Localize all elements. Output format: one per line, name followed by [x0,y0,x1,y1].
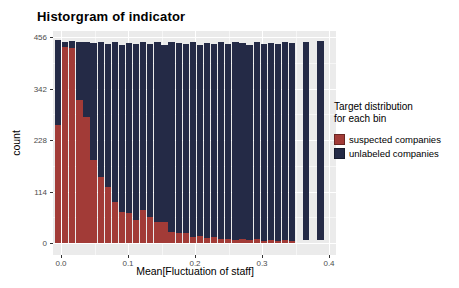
y-tick-mark [50,89,53,90]
y-tick-mark [50,140,53,141]
bar-unlabeled-segment [76,42,82,99]
bar-unlabeled-segment [55,40,61,125]
legend-swatch [334,148,345,159]
bar-unlabeled-segment [211,44,217,237]
legend-item-label: suspected companies [349,134,441,145]
bar-unlabeled-segment [90,43,96,160]
bar-unlabeled-segment [317,41,323,240]
bar-unlabeled-segment [218,42,224,239]
bar-unlabeled-segment [204,43,210,238]
bar-suspected-segment [161,222,167,243]
bar-unlabeled-segment [154,42,160,222]
bar-unlabeled-segment [246,45,252,241]
plot-panel [53,31,336,255]
bar-unlabeled-segment [140,42,146,210]
bar-unlabeled-segment [183,44,189,232]
bar-unlabeled-segment [254,42,260,239]
y-tick-label: 456 [27,33,47,42]
y-tick-label: 114 [27,187,47,196]
bar-unlabeled-segment [225,44,231,239]
bar-unlabeled-segment [161,45,167,222]
bar-suspected-segment [246,240,252,243]
legend-item: suspected companies [334,133,456,146]
legend-item-label: unlabeled companies [349,148,439,159]
bar-suspected-segment [232,240,238,243]
bar-unlabeled-segment [168,42,174,231]
bar-suspected-segment [55,125,61,243]
bar-suspected-segment [98,177,104,243]
bar-unlabeled-segment [83,42,89,117]
histogram-screenshot: { "chart_data": { "type": "bar", "stacke… [0,0,459,288]
bar-suspected-segment [119,212,125,243]
bar-suspected-segment [83,117,89,243]
bar-suspected-segment [126,213,132,243]
bar-suspected-segment [218,239,224,243]
bar-suspected-segment [76,100,82,243]
bar-suspected-segment [168,232,174,243]
bar-suspected-segment [204,238,210,243]
chart-title: Historgram of indicator [37,9,185,24]
bar-unlabeled-segment [289,43,295,240]
bar-unlabeled-segment [112,42,118,202]
bar-unlabeled-segment [98,42,104,177]
bar-suspected-segment [69,48,75,243]
x-tick-label: 0.4 [317,259,341,268]
x-tick-mark [329,255,330,258]
bar-unlabeled-segment [119,45,125,212]
x-tick-mark [195,255,196,258]
bar-suspected-segment [190,237,196,243]
bar-suspected-segment [282,240,288,243]
bar-unlabeled-segment [147,44,153,217]
bar-unlabeled-segment [232,42,238,239]
bar-unlabeled-segment [303,42,309,240]
legend-title-line1: Target distribution [334,101,456,113]
x-tick-mark [128,255,129,258]
x-tick-mark [262,255,263,258]
legend-title-line2: for each bin [334,113,456,125]
bar-suspected-segment [90,160,96,243]
legend-title: Target distribution for each bin [334,101,456,125]
bar-unlabeled-segment [239,43,245,239]
bar-suspected-segment [225,239,231,243]
y-tick-mark [50,37,53,38]
bar-unlabeled-segment [105,44,111,187]
bar-unlabeled-segment [261,44,267,241]
y-tick-label: 342 [27,84,47,93]
bar-unlabeled-segment [176,43,182,232]
bar-unlabeled-segment [268,43,274,240]
bar-suspected-segment [275,241,281,243]
bar-unlabeled-segment [282,42,288,241]
bar-suspected-segment [133,220,139,243]
legend-items: suspected companiesunlabeled companies [334,133,456,160]
bar-suspected-segment [147,217,153,243]
bar-suspected-segment [197,236,203,243]
bar-suspected-segment [62,47,68,243]
bar-suspected-segment [105,187,111,243]
bar-unlabeled-segment [133,44,139,219]
bar-unlabeled-segment [126,43,132,213]
y-tick-label: 228 [27,136,47,145]
bar-suspected-segment [112,202,118,243]
bar-unlabeled-segment [190,42,196,237]
bar-suspected-segment [289,241,295,243]
x-tick-mark [61,255,62,258]
y-axis-title: count [10,130,22,156]
legend-item: unlabeled companies [334,147,456,160]
legend-swatch [334,134,345,145]
gridline-vertical-major [329,31,330,255]
bar-suspected-segment [140,210,146,243]
bar-unlabeled-segment [275,44,281,240]
gridline-vertical-minor [296,31,297,255]
bar-suspected-segment [268,240,274,243]
bar-suspected-segment [211,237,217,243]
bar-suspected-segment [176,233,182,243]
bar-suspected-segment [254,239,260,243]
x-axis-title: Mean[Fluctuation of staff] [136,265,254,277]
y-tick-mark [50,192,53,193]
bar-unlabeled-segment [69,41,75,48]
bar-unlabeled-segment [197,45,203,236]
legend: Target distribution for each bin suspect… [334,101,456,160]
bar-suspected-segment [261,241,267,243]
y-tick-label: 0 [27,239,47,248]
bar-suspected-segment [154,222,160,243]
